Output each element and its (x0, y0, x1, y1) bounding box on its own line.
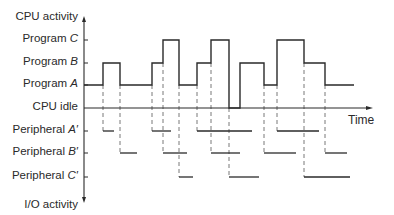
cpu-level-label-text: Program (22, 32, 69, 44)
cpu-activity-trace (84, 40, 354, 108)
cpu-level-label-text: CPU idle (33, 100, 78, 112)
io-level-label-text: Peripheral (12, 169, 68, 181)
io-activity-segments (103, 131, 350, 177)
cpu-level-label-idle: CPU idle (0, 100, 78, 112)
cpu-level-label-text: Program (23, 77, 70, 89)
dashed-connectors (103, 63, 325, 177)
y-axis-top-label: CPU activity (0, 10, 78, 22)
axes (82, 16, 373, 203)
cpu-io-timing-diagram: Time CPU activity I/O activity Program C… (0, 0, 394, 215)
vertical-axis-up-arrow-icon (82, 16, 86, 22)
y-axis-bottom-label: I/O activity (0, 198, 78, 210)
io-level-label-text: Peripheral (13, 123, 69, 135)
cpu-level-label-letter: C (70, 32, 78, 44)
cpu-level-label-letter: A (70, 77, 78, 89)
time-axis-label: Time (348, 113, 375, 127)
io-level-label-A-prime: Peripheral A′ (0, 123, 78, 135)
io-level-label-C-prime: Peripheral C′ (0, 169, 78, 181)
io-level-label-text: Peripheral (13, 145, 69, 157)
io-level-label-letter: A′ (68, 123, 78, 135)
cpu-level-label-letter: B (70, 55, 78, 67)
time-axis-arrow-icon (366, 106, 373, 110)
io-level-label-letter: C′ (68, 169, 78, 181)
cpu-level-label-A: Program A (0, 77, 78, 89)
io-level-label-letter: B′ (68, 145, 78, 157)
io-level-label-B-prime: Peripheral B′ (0, 145, 78, 157)
vertical-axis-down-arrow-icon (82, 197, 86, 203)
cpu-level-label-text: Program (23, 55, 70, 67)
cpu-level-label-B: Program B (0, 55, 78, 67)
cpu-level-label-C: Program C (0, 32, 78, 44)
